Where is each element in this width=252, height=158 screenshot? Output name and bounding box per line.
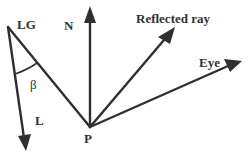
- label-lg: LG: [17, 17, 36, 32]
- label-n: N: [64, 18, 74, 33]
- label-p: P: [84, 131, 92, 146]
- l-arrowhead-icon: [18, 134, 31, 151]
- reflected-arrowhead-icon: [158, 27, 175, 44]
- eye-vector-line: [90, 66, 228, 127]
- label-beta: β: [30, 77, 37, 92]
- label-eye: Eye: [199, 55, 220, 70]
- n-arrowhead-icon: [84, 6, 96, 23]
- reflected-ray-line: [90, 40, 164, 127]
- reflection-diagram: LG N Reflected ray Eye β L P: [0, 0, 252, 158]
- beta-angle-arc: [15, 63, 37, 74]
- label-l: L: [35, 113, 44, 128]
- label-reflected-ray: Reflected ray: [136, 11, 210, 26]
